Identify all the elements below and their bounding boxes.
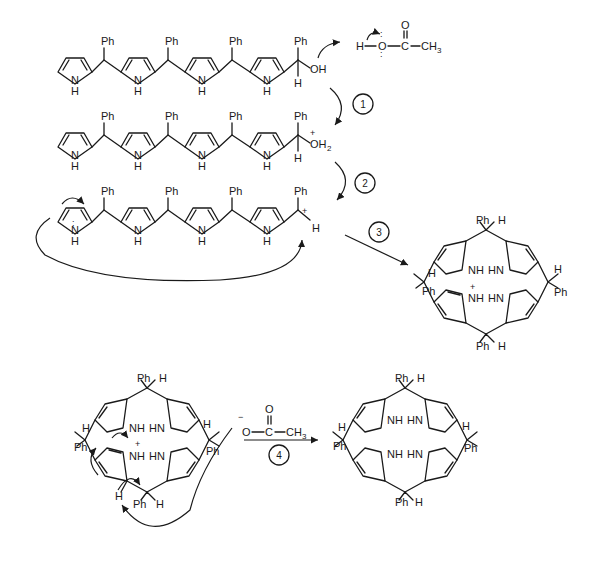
- h-label: H: [462, 420, 470, 432]
- c-label: C: [265, 426, 273, 438]
- ch3-label: CH: [286, 426, 302, 438]
- ph-label: Ph: [395, 372, 408, 384]
- hn-label: HN: [149, 450, 165, 462]
- ph-label: Ph: [101, 110, 114, 122]
- h-label: H: [312, 222, 320, 234]
- ph-label: Ph: [137, 372, 150, 384]
- porphyrinogen: [333, 380, 477, 500]
- h-label: H: [428, 267, 436, 279]
- o-label: O: [401, 19, 410, 31]
- ph-label: Ph: [554, 286, 567, 298]
- step-arrow-icon: [345, 235, 408, 265]
- ph-label: Ph: [333, 440, 346, 452]
- row3-labels: Ph Ph Ph Ph N H : N H N H N H + H: [71, 185, 320, 247]
- row2-labels: Ph Ph Ph Ph N H N H N H N H OH 2 + H: [71, 110, 332, 172]
- o-label: O: [242, 426, 251, 438]
- h-label: H: [294, 77, 302, 89]
- h-label: H: [554, 263, 562, 275]
- ph-label: Ph: [101, 35, 114, 47]
- ph-label: Ph: [165, 110, 178, 122]
- step-3-label: 3: [376, 227, 382, 238]
- plus-charge: +: [135, 439, 140, 449]
- plus-charge: +: [470, 282, 475, 292]
- ph-label: Ph: [476, 340, 489, 352]
- step-4-label: 4: [276, 450, 282, 461]
- h-label: H: [71, 160, 79, 172]
- h-label: H: [263, 235, 271, 247]
- h-label: H: [498, 214, 506, 226]
- h-label: H: [263, 160, 271, 172]
- ph-label: Ph: [229, 185, 242, 197]
- curved-arrow-icon: [62, 198, 84, 204]
- hn-label: HN: [407, 448, 423, 460]
- svg-text::: :: [72, 218, 75, 228]
- nh-label: NH: [129, 422, 145, 434]
- h-label: H: [134, 160, 142, 172]
- svg-text:3: 3: [437, 46, 442, 55]
- protonated-carbinol: [58, 123, 310, 159]
- ch3-label: CH: [421, 40, 437, 52]
- ph-label: Ph: [294, 35, 307, 47]
- curved-arrow-icon: [367, 33, 380, 40]
- oh-label: OH: [310, 63, 327, 75]
- h-label: H: [203, 418, 211, 430]
- deprotonation-labels: Ph H NH HN H Ph H Ph + NH HN H Ph H: [74, 372, 219, 510]
- curved-arrow-icon: [91, 448, 98, 475]
- plus-charge: +: [302, 206, 307, 216]
- h-label: H: [71, 235, 79, 247]
- ph-label: Ph: [206, 445, 219, 457]
- h-label: H: [115, 490, 123, 502]
- ph-label: Ph: [133, 498, 146, 510]
- ph-label: Ph: [165, 185, 178, 197]
- ph-label: Ph: [229, 35, 242, 47]
- ph-label: Ph: [422, 285, 435, 297]
- acetic-acid: H O : : C O CH 3: [356, 19, 442, 59]
- nh-label: NH: [468, 264, 484, 276]
- ph-label: Ph: [294, 185, 307, 197]
- minus-charge: −: [238, 412, 243, 422]
- hn-label: HN: [488, 292, 504, 304]
- ph-label: Ph: [101, 185, 114, 197]
- svg-text:2: 2: [327, 144, 332, 153]
- ph-label: Ph: [464, 442, 477, 454]
- h-label: H: [134, 235, 142, 247]
- hn-label: HN: [407, 414, 423, 426]
- curved-arrow-icon: [112, 433, 128, 438]
- c-label: C: [401, 40, 409, 52]
- h-label: H: [417, 372, 425, 384]
- h-label: H: [294, 152, 302, 164]
- hn-label: HN: [149, 422, 165, 434]
- h-label: H: [198, 85, 206, 97]
- curved-arrow-icon: [318, 42, 340, 58]
- svg-text::: :: [380, 29, 383, 39]
- h-label: H: [198, 235, 206, 247]
- ph-label: Ph: [165, 35, 178, 47]
- svg-text::: :: [380, 49, 383, 59]
- h-label: H: [415, 496, 423, 508]
- h-label: H: [159, 372, 167, 384]
- nh-label: NH: [387, 414, 403, 426]
- h-label: H: [198, 160, 206, 172]
- reaction-diagram: Ph Ph Ph Ph N H N H N H N H OH H H O : :…: [0, 0, 596, 562]
- hn-label: HN: [488, 264, 504, 276]
- ph-label: Ph: [395, 496, 408, 508]
- porphyrinogen-labels: Ph H NH HN H Ph H Ph NH HN Ph H: [333, 372, 477, 508]
- row1-labels: Ph Ph Ph Ph N H N H N H N H OH H: [71, 35, 327, 97]
- ph-label: Ph: [476, 214, 489, 226]
- h-label: H: [134, 85, 142, 97]
- h-label: H: [263, 85, 271, 97]
- cyclized-cation-deprotonation: [75, 380, 219, 500]
- step-1-label: 1: [360, 99, 366, 110]
- cyclized-cation: [414, 222, 558, 342]
- oh2-label: OH: [310, 138, 327, 150]
- h-label: H: [71, 85, 79, 97]
- h-label: H: [338, 421, 346, 433]
- ph-label: Ph: [74, 441, 87, 453]
- ph-label: Ph: [294, 110, 307, 122]
- nh-label: NH: [468, 292, 484, 304]
- nh-label: NH: [129, 450, 145, 462]
- tetrapyrrole-carbinol: [58, 48, 310, 84]
- o-label: O: [265, 403, 274, 415]
- step-2-label: 2: [362, 178, 368, 189]
- h-label: H: [498, 340, 506, 352]
